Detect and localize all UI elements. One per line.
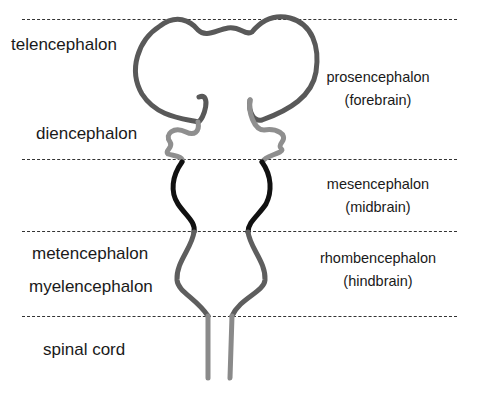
label-mesencephalon-group: mesencephalon (midbrain) bbox=[308, 173, 448, 219]
label-telencephalon: telencephalon bbox=[11, 35, 117, 55]
label-metencephalon: metencephalon bbox=[32, 244, 148, 264]
mesencephalon-left-outline bbox=[173, 162, 194, 232]
rhombencephalon-left-outline bbox=[177, 232, 208, 316]
label-myelencephalon: myelencephalon bbox=[29, 277, 153, 297]
spinal-cord-right-outline bbox=[230, 316, 232, 378]
diencephalon-left-outline bbox=[167, 122, 198, 162]
label-diencephalon: diencephalon bbox=[36, 124, 137, 144]
label-prosencephalon: prosencephalon bbox=[308, 66, 448, 89]
label-rhombencephalon-group: rhombencephalon (hindbrain) bbox=[308, 247, 448, 293]
label-midbrain: (midbrain) bbox=[308, 196, 448, 219]
telencephalon-outline bbox=[136, 17, 317, 122]
diencephalon-right-outline bbox=[250, 100, 284, 162]
label-hindbrain: (hindbrain) bbox=[308, 270, 448, 293]
label-spinal-cord: spinal cord bbox=[43, 340, 125, 360]
label-prosencephalon-group: prosencephalon (forebrain) bbox=[308, 66, 448, 112]
label-forebrain: (forebrain) bbox=[308, 89, 448, 112]
rhombencephalon-right-outline bbox=[232, 232, 265, 316]
label-mesencephalon: mesencephalon bbox=[308, 173, 448, 196]
label-rhombencephalon: rhombencephalon bbox=[308, 247, 448, 270]
mesencephalon-right-outline bbox=[248, 162, 270, 232]
